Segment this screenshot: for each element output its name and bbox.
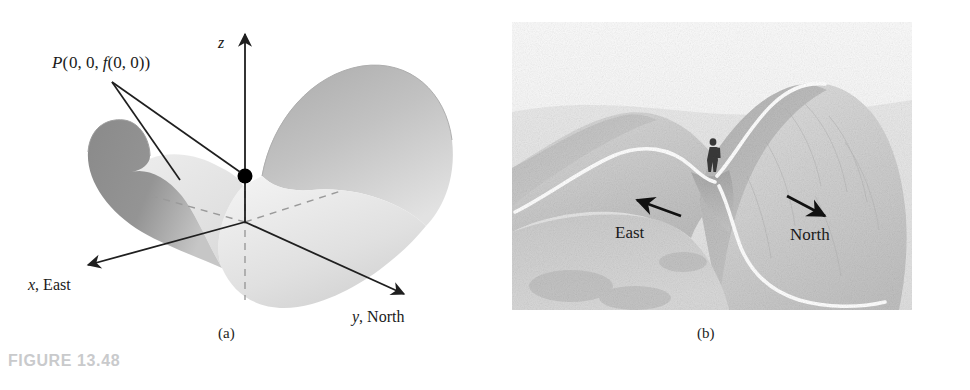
x-axis-suffix: , East (35, 276, 71, 293)
point-p-label: P(0, 0,f(0, 0)) (51, 53, 150, 72)
hiker-head (710, 138, 717, 146)
point-p-open-paren: ( (62, 53, 68, 72)
saddle-surface-diagram: P(0, 0,f(0, 0)) z x, East y, North (0, 0, 485, 390)
saddle-surface-shape (88, 65, 453, 308)
east-label: East (615, 223, 645, 242)
point-p-close-paren: ) (144, 53, 150, 72)
panel-b-mountain-pass: East North (485, 0, 970, 390)
y-axis-suffix: , North (359, 308, 404, 325)
mountain-pass-drawing: East North (485, 0, 970, 390)
point-p-symbol: P (51, 53, 62, 72)
y-axis-label: y, North (350, 308, 404, 326)
panel-a-saddle-surface: P(0, 0,f(0, 0)) z x, East y, North (0, 0, 485, 390)
hiker-pack (716, 147, 721, 158)
panel-b-sublabel: (b) (697, 325, 715, 342)
panel-a-sublabel: (a) (218, 325, 235, 342)
x-axis-symbol: x (27, 276, 35, 293)
saddle-point-marker (238, 169, 253, 184)
z-axis-label: z (217, 34, 225, 51)
north-label: North (790, 225, 830, 244)
terrain-scene (512, 22, 912, 310)
z-axis-symbol: z (217, 34, 225, 51)
point-p-f-args: (0, 0) (108, 53, 145, 72)
point-p-args: 0, 0, (69, 53, 99, 72)
x-axis-label: x, East (27, 276, 71, 293)
figure-13-48: P(0, 0,f(0, 0)) z x, East y, North (0, 0, 970, 390)
figure-caption: FIGURE 13.48 (8, 352, 120, 370)
